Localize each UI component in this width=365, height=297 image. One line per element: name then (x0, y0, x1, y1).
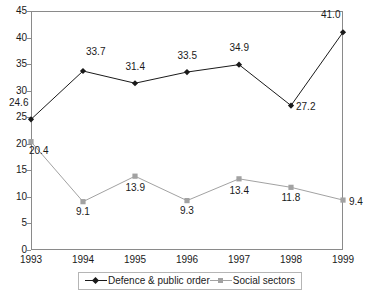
data-point-marker (132, 174, 137, 179)
data-point-label: 24.6 (9, 98, 28, 108)
data-point-label: 34.9 (230, 43, 249, 53)
data-point-label: 33.7 (86, 47, 105, 57)
data-point-marker (288, 185, 293, 190)
data-point-label: 13.4 (230, 186, 249, 196)
data-point-label: 9.1 (76, 207, 90, 217)
data-point-marker (28, 139, 33, 144)
legend-item-social-sectors[interactable]: Social sectors (210, 276, 295, 286)
data-point-label: 31.4 (126, 62, 145, 72)
data-point-marker (132, 80, 138, 86)
chart-legend: Defence & public order Social sectors (78, 272, 302, 290)
data-point-label: 9.3 (180, 206, 194, 216)
data-point-label: 11.8 (282, 193, 301, 203)
legend-item-defence-public-order[interactable]: Defence & public order (85, 276, 210, 286)
data-point-label: 9.4 (349, 197, 363, 207)
legend-item-label: Defence & public order (107, 276, 210, 286)
data-point-marker (236, 176, 241, 181)
data-point-marker (340, 29, 346, 35)
data-point-marker (184, 69, 190, 75)
data-point-marker (184, 198, 189, 203)
data-point-label: 13.9 (126, 183, 145, 193)
legend-item-label: Social sectors (232, 276, 295, 286)
data-point-label: 27.2 (296, 102, 315, 112)
data-point-label: 41.0 (321, 10, 340, 20)
data-point-marker (80, 199, 85, 204)
data-point-label: 20.4 (29, 146, 48, 156)
data-point-marker (340, 197, 345, 202)
data-point-label: 33.5 (178, 51, 197, 61)
legend-square-marker-icon (210, 276, 232, 286)
legend-diamond-marker-icon (85, 276, 107, 286)
